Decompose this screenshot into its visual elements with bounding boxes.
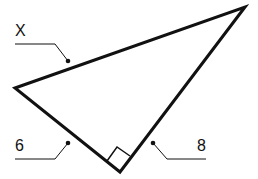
leader-dot-8: [151, 141, 156, 146]
label-hypotenuse: X: [15, 23, 26, 39]
label-left-leg: 6: [15, 138, 24, 154]
leader-line-x: [15, 44, 68, 61]
leader-dot-x: [66, 59, 71, 64]
label-right-leg: 8: [197, 138, 206, 154]
leader-dot-6: [66, 141, 71, 146]
triangle-diagram: [0, 0, 258, 179]
triangle: [15, 7, 245, 172]
right-angle-marker: [107, 147, 130, 161]
